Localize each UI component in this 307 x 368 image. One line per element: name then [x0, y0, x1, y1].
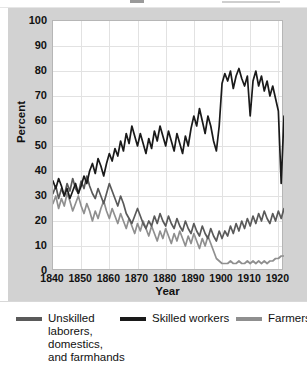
series-line — [53, 69, 284, 199]
y-tick-label: 80 — [8, 65, 47, 76]
series-line — [53, 194, 284, 264]
y-axis-tick-labels: 1009080706050403020100 — [8, 20, 47, 270]
y-tick-label: 40 — [8, 165, 47, 176]
legend-label-farmers: Farmers — [268, 312, 307, 325]
chart-lines — [53, 21, 284, 271]
y-axis-title: Percent — [15, 87, 27, 157]
y-tick-label: 50 — [8, 140, 47, 151]
y-tick-label: 100 — [8, 15, 47, 26]
cropped-artifact-left — [130, 0, 144, 3]
y-tick-label: 70 — [8, 90, 47, 101]
chart-figure: 1009080706050403020100 Percent 184018501… — [0, 0, 307, 368]
x-tick-label: 1850 — [68, 272, 91, 284]
x-tick-label: 1910 — [238, 272, 261, 284]
legend-label-unskilled: Unskilled laborers, domestics, and farmh… — [48, 312, 125, 364]
y-tick-label: 10 — [8, 240, 47, 251]
legend-label-skilled: Skilled workers — [152, 312, 229, 325]
x-tick-label: 1880 — [153, 272, 176, 284]
cropped-artifact-right — [222, 1, 280, 3]
y-tick-label: 60 — [8, 115, 47, 126]
x-axis-title: Year — [52, 285, 283, 297]
legend-item-farmers: Farmers — [236, 312, 307, 325]
x-tick-label: 1890 — [181, 272, 204, 284]
cropped-top-strip — [0, 0, 307, 8]
legend-swatch-farmers — [236, 317, 262, 321]
y-tick-label: 30 — [8, 190, 47, 201]
y-tick-label: 90 — [8, 40, 47, 51]
x-tick-label: 1920 — [266, 272, 289, 284]
x-tick-label: 1900 — [209, 272, 232, 284]
series-line — [53, 176, 284, 241]
x-tick-label: 1840 — [40, 272, 63, 284]
legend-item-skilled: Skilled workers — [120, 312, 240, 325]
x-tick-label: 1870 — [125, 272, 148, 284]
y-tick-label: 20 — [8, 215, 47, 226]
chart-legend: Unskilled laborers, domestics, and farmh… — [0, 301, 307, 368]
legend-item-unskilled: Unskilled laborers, domestics, and farmh… — [16, 312, 136, 364]
chart-panel: 1009080706050403020100 Percent 184018501… — [8, 8, 307, 301]
plot-area — [52, 20, 283, 270]
legend-swatch-unskilled — [16, 317, 42, 321]
legend-swatch-skilled — [120, 317, 146, 321]
x-tick-label: 1860 — [97, 272, 120, 284]
